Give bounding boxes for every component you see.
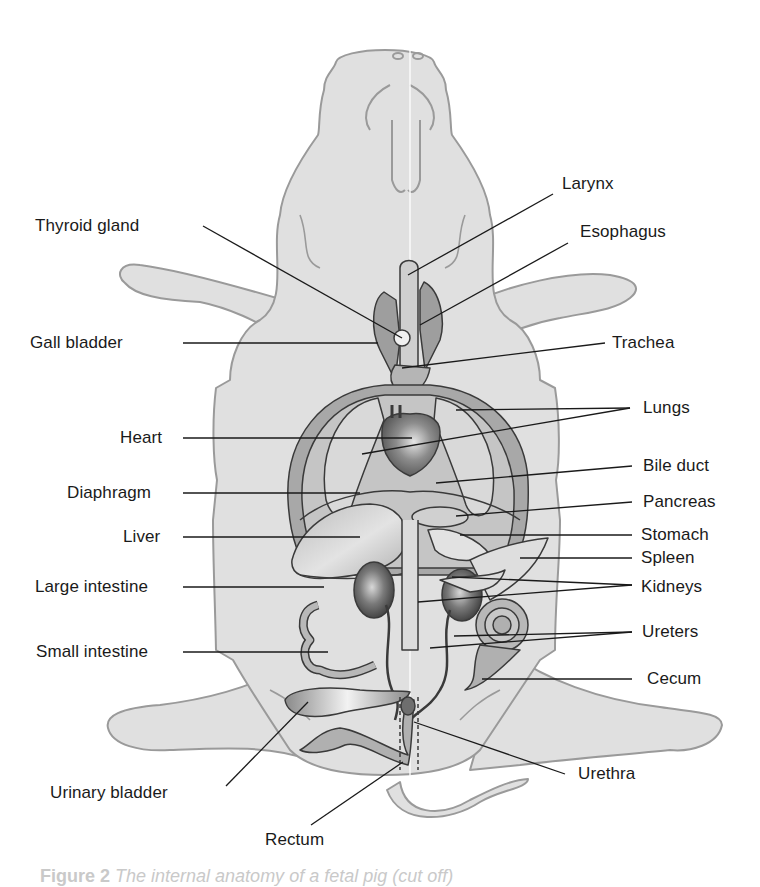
label-spleen: Spleen [641,548,695,568]
label-small-intestine: Small intestine [36,642,148,662]
caption-text: The internal anatomy of a fetal pig (cut… [115,866,453,886]
label-urinary-bladder: Urinary bladder [50,783,168,803]
label-gall-bladder: Gall bladder [30,333,123,353]
label-large-intestine: Large intestine [35,577,148,597]
label-bile-duct: Bile duct [643,456,709,476]
label-stomach: Stomach [641,525,709,545]
label-larynx: Larynx [562,174,614,194]
label-pancreas: Pancreas [643,492,716,512]
label-diaphragm: Diaphragm [67,483,151,503]
label-cecum: Cecum [647,669,701,689]
label-rectum: Rectum [265,830,324,850]
label-thyroid-gland: Thyroid gland [35,216,139,236]
figure-caption: Figure 2 The internal anatomy of a fetal… [40,866,453,887]
label-liver: Liver [123,527,160,547]
label-ureters: Ureters [642,622,698,642]
label-urethra: Urethra [578,764,635,784]
label-lungs: Lungs [643,398,690,418]
caption-prefix: Figure 2 [40,866,110,886]
label-kidneys: Kidneys [641,577,702,597]
label-trachea: Trachea [612,333,674,353]
label-esophagus: Esophagus [580,222,666,242]
label-heart: Heart [120,428,162,448]
